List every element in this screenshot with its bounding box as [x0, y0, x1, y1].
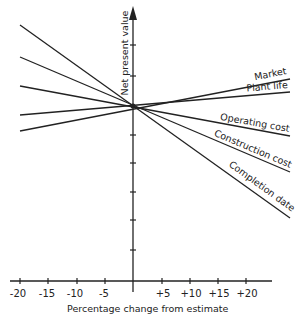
x-tick-label: -10: [67, 288, 83, 299]
series-line-construction-cost: [20, 57, 290, 172]
x-tick-label: -15: [39, 288, 55, 299]
origin-point: [131, 104, 136, 109]
series-label-operating-cost: Operating cost: [219, 111, 290, 134]
x-tick-label: +5: [156, 288, 171, 299]
x-tick-label: +20: [236, 288, 257, 299]
x-axis-label: Percentage change from estimate: [67, 303, 229, 314]
x-tick-label: -5: [99, 288, 109, 299]
x-tick-label: -20: [10, 288, 26, 299]
chart: -20 -15 -10 -5 +5 +10 +15 +20 Percentage…: [0, 0, 304, 317]
y-axis-label: Net present value: [119, 10, 130, 95]
series-label-construction-cost: Construction cost: [213, 127, 294, 170]
x-tick-label: +10: [180, 288, 201, 299]
x-tick-label: +15: [208, 288, 229, 299]
series-label-plant-life: Plant life: [246, 79, 288, 94]
y-axis-arrow-icon: [129, 6, 137, 20]
